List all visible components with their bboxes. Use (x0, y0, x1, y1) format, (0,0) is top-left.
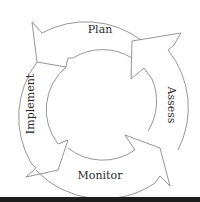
label-assess: Assess (165, 85, 178, 123)
cycle-diagram: Plan Assess Monitor Implement (0, 0, 200, 202)
label-plan: Plan (88, 23, 113, 36)
monitor-arrow (36, 135, 170, 199)
plan-arrow (32, 22, 141, 67)
label-monitor: Monitor (78, 169, 124, 182)
assess-arrow (131, 33, 188, 150)
bottom-rule (0, 197, 200, 202)
label-implement: Implement (24, 73, 37, 134)
